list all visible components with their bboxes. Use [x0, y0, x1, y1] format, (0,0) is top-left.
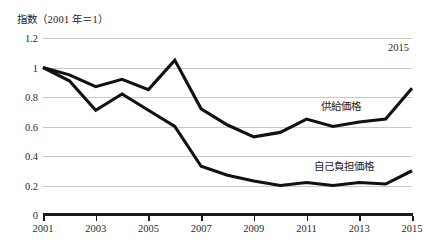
series-label-out-of-pocket-price: 自己負担価格	[314, 158, 374, 173]
x-axis-tick-label: 2011	[296, 223, 317, 234]
x-axis-tick-mark	[412, 216, 414, 221]
series-layer	[0, 0, 441, 252]
x-axis-tick-label: 2007	[191, 223, 212, 234]
x-axis-tick-label: 2013	[349, 223, 370, 234]
x-axis-tick-mark	[201, 216, 203, 221]
series-label-supply-price: 供給価格	[321, 98, 361, 113]
x-axis-tick-label: 2003	[85, 223, 106, 234]
x-axis-tick-mark	[254, 216, 256, 221]
x-axis-tick-mark	[43, 216, 45, 221]
x-axis-tick-label: 2009	[243, 223, 264, 234]
x-axis-tick-mark	[148, 216, 150, 221]
x-axis-tick-label: 2005	[138, 223, 159, 234]
x-axis-tick-label: 2001	[33, 223, 54, 234]
x-axis-tick-mark	[96, 216, 98, 221]
annotation-end-year: 2015	[388, 42, 409, 53]
line-chart: 指数（2001 年＝1） 1.210.80.60.40.20 供給価格 自己負担…	[0, 0, 441, 252]
x-axis-tick-mark	[359, 216, 361, 221]
x-axis-tick-mark	[307, 216, 309, 221]
x-axis-tick-label: 2015	[402, 223, 423, 234]
